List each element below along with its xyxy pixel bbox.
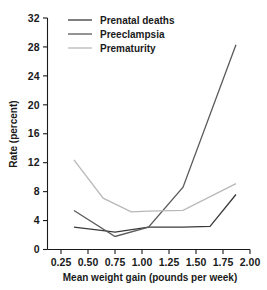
x-axis-tick-labels: 0.250.500.751.001.251.501.752.00 <box>51 256 261 268</box>
series-line-preeclampsia <box>74 45 236 237</box>
y-tick-label: 4 <box>34 214 40 226</box>
y-tick-label: 32 <box>28 12 40 24</box>
y-axis-ticks <box>43 18 48 250</box>
y-tick-label: 12 <box>28 156 40 168</box>
legend-label-prenatal-deaths: Prenatal deaths <box>100 15 175 26</box>
line-chart: 048121620242832 0.250.500.751.001.251.50… <box>0 0 267 290</box>
legend-label-preeclampsia: Preeclampsia <box>100 29 165 40</box>
y-tick-label: 16 <box>28 127 40 139</box>
x-tick-label: 1.00 <box>132 256 153 268</box>
x-tick-label: 2.00 <box>240 256 261 268</box>
y-tick-label: 0 <box>34 243 40 255</box>
x-axis-title: Mean weight gain (pounds per week) <box>63 272 237 283</box>
y-axis-title: Rate (percent) <box>8 100 19 167</box>
legend-label-prematurity: Prematurity <box>100 43 156 54</box>
y-tick-label: 20 <box>28 99 40 111</box>
x-tick-label: 0.50 <box>78 256 99 268</box>
y-tick-label: 8 <box>34 185 40 197</box>
chart-legend: Prenatal deathsPreeclampsiaPrematurity <box>68 15 175 54</box>
y-tick-label: 24 <box>28 70 40 82</box>
y-tick-label: 28 <box>28 41 40 53</box>
y-axis-tick-labels: 048121620242832 <box>28 12 40 256</box>
x-tick-label: 0.25 <box>51 256 72 268</box>
x-tick-label: 0.75 <box>105 256 126 268</box>
x-tick-label: 1.25 <box>159 256 180 268</box>
chart-figure: 048121620242832 0.250.500.751.001.251.50… <box>0 0 267 290</box>
series-line-prematurity <box>74 160 236 212</box>
data-series-group <box>74 45 236 237</box>
x-tick-label: 1.50 <box>186 256 207 268</box>
x-tick-label: 1.75 <box>213 256 234 268</box>
x-axis-ticks <box>61 250 250 255</box>
